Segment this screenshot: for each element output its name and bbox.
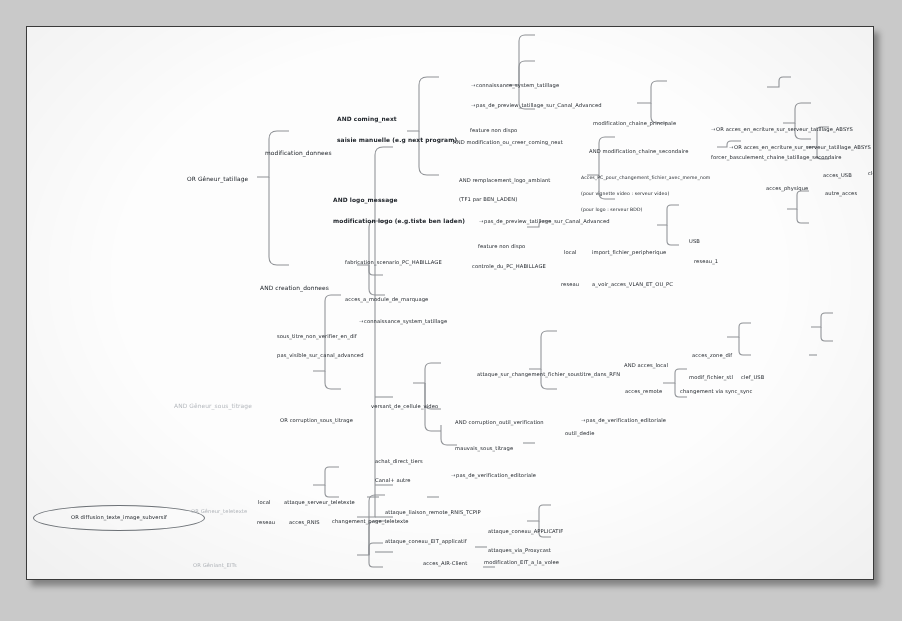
node-label: acces_remote [625, 389, 662, 395]
node-label: AND acces_local [624, 363, 668, 369]
node-changement-via-sync[interactable]: changement via sync_sync [680, 377, 752, 408]
root-node-label: OR diffusion_texte_image_subversif [71, 515, 167, 521]
node-label: attaque_serveur_teletexte [284, 500, 355, 506]
node-import-fichier-peripherique[interactable]: import_fichier_peripherique [592, 238, 666, 269]
node-label: local [564, 250, 577, 256]
node-and-geneur-sous-titrage[interactable]: AND Gêneur_sous_titrage [174, 390, 252, 425]
node-label-line1: AND remplacement_logo_ambiant [459, 178, 551, 184]
screenshot-canvas: OR diffusion_texte_image_subversif OR Gê… [0, 0, 902, 621]
node-label: local [258, 500, 271, 506]
node-and-modification-chaine-secondaire[interactable]: AND modification_chaine_secondaire [589, 137, 688, 168]
node-label: modification_donnees [265, 151, 332, 158]
node-and-logo-message[interactable]: AND logo_message modification logo (e.g.… [333, 184, 465, 240]
node-label-line1: AND coming_next [337, 117, 457, 124]
node-fabrication-scenario[interactable]: fabrication_scenario_PC_HABILLAGE [345, 248, 442, 279]
node-label: outil_dedie [565, 431, 594, 437]
node-label: acces_AIR-Client [423, 561, 467, 567]
node-modification-eit[interactable]: modification_EIT [492, 568, 542, 580]
node-label-line1: →pas_de_preview_tatillage_sur_Canal_Adva… [457, 97, 602, 115]
node-label: attaque_sur_changement_fichier_soustitre… [477, 372, 620, 378]
node-modification-chaine-principale[interactable]: modification_chaine_principale [593, 109, 676, 140]
node-modification-donnees[interactable]: modification_donnees [265, 137, 332, 172]
node-label: AND creation_donnees [260, 286, 329, 293]
node-label-line2: feature non dispo [465, 244, 610, 250]
node-and-creation-donnees[interactable]: AND creation_donnees [260, 272, 329, 307]
node-sous-titre-non-verifier[interactable]: sous_titre_non_verifier_en_dif pas_visib… [277, 322, 364, 371]
node-label: AND modification_chaine_secondaire [589, 149, 688, 155]
node-attaque-changement-fichier[interactable]: attaque_sur_changement_fichier_soustitre… [477, 360, 620, 391]
node-and-coming-next[interactable]: AND coming_next saisie manuelle (e.g nex… [337, 103, 457, 159]
node-label: AND Gêneur_sous_titrage [174, 404, 252, 411]
node-label: attaque_liaison_remote_RNIS_TCPIP [385, 510, 481, 516]
node-label-line2: Canal+ autre [375, 478, 423, 484]
node-or-geneur-tatillage[interactable]: OR Gêneur_tatillage [187, 163, 248, 198]
node-label: import_fichier_peripherique [592, 250, 666, 256]
node-label: changement via sync_sync [680, 389, 752, 395]
node-acces-rnis[interactable]: acces_RNIS [289, 508, 320, 539]
node-label-line2: modification logo (e.g.tiste ben laden) [333, 219, 465, 226]
node-label: forcer_basculement_chaine_tatillage_seco… [711, 155, 842, 161]
node-controle-du-pc-habillage[interactable]: controle_du_PC_HABILLAGE [472, 252, 546, 283]
node-label: clef [868, 171, 874, 177]
node-acces-trafic-interface[interactable]: acces_trafic_Interface [423, 569, 482, 580]
node-and-modification-ou-creer-coming-next[interactable]: AND modification_ou_creer_coming_next [453, 128, 563, 159]
node-local-1[interactable]: local [564, 238, 577, 269]
node-label: attaque_conexu_APPLICATIF [488, 529, 563, 535]
node-acces-physique[interactable]: acces_physique [766, 174, 808, 205]
node-label: a_voir_acces_VLAN_ET_OU_PC [592, 282, 673, 288]
node-label: →pas_de_verification_editoriale [437, 467, 536, 485]
node-label: mauvais_sous_titrage [455, 446, 513, 452]
node-reseau-label-1[interactable]: reseau [561, 270, 579, 301]
node-or-geniant-eits[interactable]: OR Gêniant_EITs Nour idem video attaque … [193, 551, 360, 580]
node-pas-de-verification-editoriale-2[interactable]: →pas_de_verification_editoriale [437, 455, 536, 498]
node-versant-de-cellule-video[interactable]: versant_de_cellule_video [371, 392, 438, 423]
node-label: reseau [561, 282, 579, 288]
node-label: acces_physique [766, 186, 808, 192]
node-label: USB [689, 239, 700, 245]
node-label: reseau [257, 520, 275, 526]
node-reseau-1[interactable]: reseau_1 [694, 247, 718, 278]
node-autre-acces[interactable]: autre_acces [825, 179, 857, 210]
node-label: versant_de_cellule_video [371, 404, 438, 410]
node-label: fabrication_scenario_PC_HABILLAGE [345, 260, 442, 266]
node-label: acces_RNIS [289, 520, 320, 526]
node-label: autre_acces [825, 191, 857, 197]
node-or-corruption-sous-titrage[interactable]: OR corruption_sous_titrage [280, 406, 353, 437]
node-label-line1: achat_direct_tiers [375, 459, 423, 465]
node-label: modification_EIT_a_la_volee [484, 560, 559, 566]
node-label-line1: Acces_PC_pour_changement_fichier_avec_me… [581, 176, 710, 181]
node-label-line1: sous_titre_non_verifier_en_dif [277, 334, 364, 340]
node-label-line1: →pas_de_preview_tatillage_sur_Canal_Adva… [465, 213, 610, 231]
node-label: AND modification_ou_creer_coming_next [453, 140, 563, 146]
node-reseau-label-2[interactable]: reseau [257, 508, 275, 539]
node-label: OR Gêneur_teletexte [191, 509, 247, 515]
node-label: acces_zone_dif [692, 353, 732, 359]
diagram-sheet: OR diffusion_texte_image_subversif OR Gê… [26, 26, 874, 580]
node-label: attaque_conexu_EIT_applicatif [385, 539, 467, 545]
node-forcer-basculement[interactable]: forcer_basculement_chaine_tatillage_seco… [711, 143, 842, 174]
node-attaque-liaison-remote[interactable]: attaque_liaison_remote_RNIS_TCPIP [385, 498, 481, 529]
node-outil-dedie[interactable]: outil_dedie [565, 419, 594, 450]
node-label: AND corruption_outil_verification [455, 420, 544, 426]
node-label-line2: (pour vignette video : serveur video) [581, 192, 710, 197]
node-a-voir-acces-vlan[interactable]: a_voir_acces_VLAN_ET_OU_PC [592, 270, 673, 301]
node-or-geneur-teletexte[interactable]: OR Gêneur_teletexte [191, 497, 247, 528]
node-label-line2: saisie manuelle (e.g next program) [337, 138, 457, 145]
node-label-line1: AND logo_message [333, 198, 465, 205]
node-label: controle_du_PC_HABILLAGE [472, 264, 546, 270]
node-label: modification_chaine_principale [593, 121, 676, 127]
node-achat-direct-tiers[interactable]: achat_direct_tiers Canal+ autre [375, 447, 423, 496]
node-clef-usb-truncated[interactable]: clef [868, 159, 874, 190]
node-label: OR corruption_sous_titrage [280, 418, 353, 424]
root-node[interactable]: OR diffusion_texte_image_subversif [33, 505, 205, 531]
node-label: reseau_1 [694, 259, 718, 265]
node-label-line2: pas_visible_sur_canal_advanced [277, 353, 364, 359]
node-label: OR Gêneur_tatillage [187, 177, 248, 184]
node-label-line1: OR Gêniant_EITs [193, 563, 360, 569]
